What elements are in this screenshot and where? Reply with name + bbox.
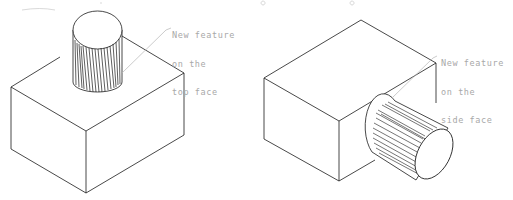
left-cylinder-feature [73, 11, 122, 92]
right-feature-label: New feature on the side face [441, 40, 504, 145]
figure: New feature on the top face New feature … [0, 0, 513, 200]
clipped-caption [22, 1, 354, 10]
left-label-line-3: top face [172, 88, 235, 98]
right-label-line-1: New feature [441, 59, 504, 69]
left-label-line-1: New feature [172, 31, 235, 41]
drawing-canvas [0, 0, 513, 200]
left-label-line-2: on the [172, 60, 235, 70]
left-feature-label: New feature on the top face [172, 12, 235, 117]
right-label-line-2: on the [441, 88, 504, 98]
right-label-line-3: side face [441, 116, 504, 126]
right-leader-line [392, 56, 437, 98]
